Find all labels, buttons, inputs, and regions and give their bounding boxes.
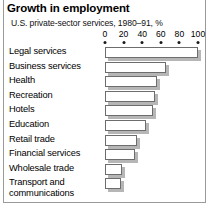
bar-row [105,149,138,160]
bar-row [105,135,140,146]
x-axis-tick-label: 20 [119,29,129,39]
category-label-list: Legal servicesBusiness servicesHealthRec… [9,47,103,196]
bar [105,135,137,146]
category-label: Health [9,75,35,86]
chart-figure: Growth in employment U.S. private-sector… [0,0,210,210]
bar [105,76,157,87]
x-axis-tick-dot [141,41,144,44]
x-axis-tick-label: 40 [137,29,147,39]
bar [105,120,146,131]
bar-row [105,62,169,73]
bar [105,149,135,160]
x-axis-tick-label: 100 [191,29,205,39]
frame-left-rule [3,0,4,203]
bar [105,105,153,116]
bar-row [105,164,125,175]
category-label: Business services [9,61,81,72]
chart-title: Growth in employment [7,2,130,14]
bar-row [105,105,156,116]
x-axis-tick-dot [197,41,200,44]
x-axis-tick-dot [122,41,125,44]
x-axis-tick-dot [104,41,107,44]
chart-subtitle: U.S. private-sector services, 1980–91, % [11,18,163,28]
x-axis-tick-dot [159,41,162,44]
x-axis-tick-label: 0 [103,29,108,39]
bar [105,62,166,73]
bar-row [105,91,158,102]
x-axis-tick-dot [178,41,181,44]
x-axis-tick-label: 80 [175,29,185,39]
bar [105,178,121,189]
bar-row [105,76,160,87]
category-label: Financial services [9,148,80,159]
category-label: Retail trade [9,134,55,145]
category-label: Hotels [9,104,34,115]
category-label: Legal services [9,46,66,57]
x-axis-tick-label: 60 [156,29,166,39]
bar-row [105,178,124,189]
bar-row [105,120,149,131]
category-label: Transport andcommunications [9,177,81,198]
bar [105,164,122,175]
category-label: Recreation [9,90,52,101]
bar [105,47,198,58]
category-label: Wholesale trade [9,163,74,174]
bar-plot-area [105,47,198,196]
frame-bottom-rule [3,202,206,203]
x-axis-tick-marks [100,41,204,46]
bar [105,91,155,102]
bar-row [105,47,201,58]
category-label: Education [9,119,49,130]
x-axis-tick-labels: 020406080100 [100,29,204,41]
